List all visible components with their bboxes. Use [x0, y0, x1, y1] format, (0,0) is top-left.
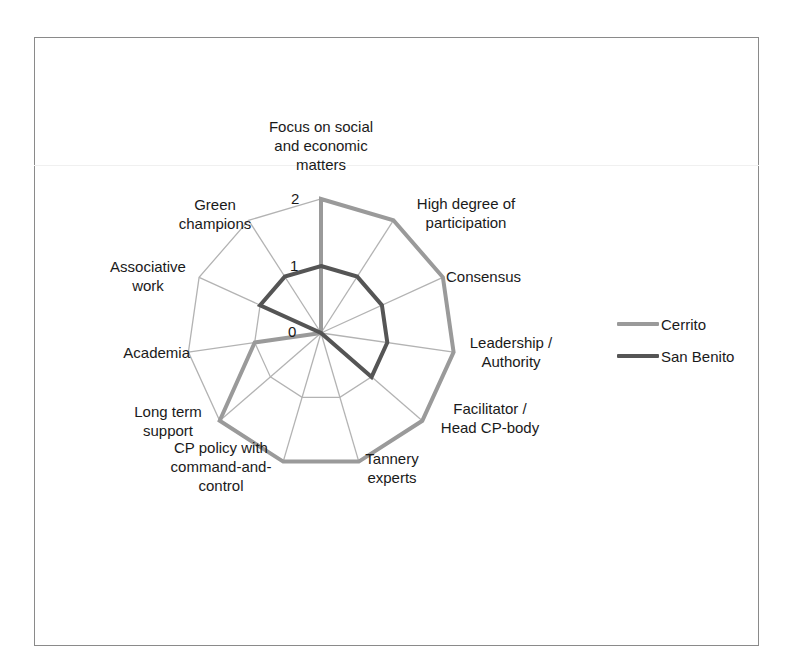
legend-swatch-san-benito	[617, 354, 659, 358]
chart-legend: Cerrito San Benito	[617, 308, 734, 372]
category-label: Long term support	[118, 402, 218, 440]
legend-item-cerrito: Cerrito	[617, 308, 734, 340]
category-label: Leadership / Authority	[456, 333, 566, 371]
category-label: Associative work	[98, 257, 198, 295]
category-label: CP policy with command-and- control	[146, 438, 296, 495]
category-label: Facilitator / Head CP-body	[425, 399, 555, 437]
category-label: Focus on social and economic matters	[253, 117, 389, 174]
category-label: Academia	[100, 343, 190, 362]
category-label: Tannery experts	[344, 449, 440, 487]
radar-series	[220, 199, 454, 462]
category-label: Green champions	[170, 195, 260, 233]
legend-label-cerrito: Cerrito	[661, 316, 706, 333]
radial-tick-1: 1	[290, 258, 298, 274]
series-line-san-benito	[260, 266, 387, 377]
category-label: High degree of participation	[396, 194, 536, 232]
category-label: Consensus	[446, 267, 546, 286]
legend-item-san-benito: San Benito	[617, 340, 734, 372]
grid-spoke	[220, 333, 321, 421]
radial-tick-2: 2	[291, 191, 299, 207]
series-line-cerrito	[220, 199, 454, 462]
radial-tick-0: 0	[288, 324, 296, 340]
legend-swatch-cerrito	[617, 322, 659, 326]
legend-label-san-benito: San Benito	[661, 348, 734, 365]
